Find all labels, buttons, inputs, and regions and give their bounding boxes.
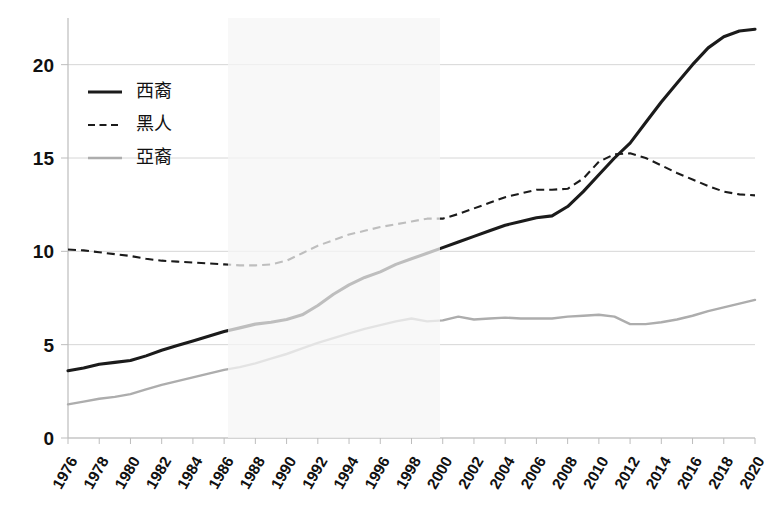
x-tick-label-1998: 1998 bbox=[392, 453, 424, 492]
x-tick-label-1984: 1984 bbox=[174, 453, 206, 492]
legend-label-1: 黑人 bbox=[136, 114, 172, 134]
x-tick-label-2014: 2014 bbox=[642, 453, 674, 492]
x-tick-label-1978: 1978 bbox=[80, 453, 112, 492]
x-axis-ticks-group: 1976197819801982198419861988199019921994… bbox=[49, 438, 768, 492]
x-tick-label-2010: 2010 bbox=[580, 453, 612, 491]
legend-label-2: 亞裔 bbox=[136, 147, 172, 167]
legend-label-0: 西裔 bbox=[136, 81, 172, 101]
x-tick-label-2002: 2002 bbox=[455, 453, 487, 491]
x-tick-label-1996: 1996 bbox=[361, 453, 393, 492]
x-tick-label-1992: 1992 bbox=[299, 453, 331, 491]
chart-legend: 西裔黑人亞裔 bbox=[88, 81, 172, 167]
x-tick-label-2008: 2008 bbox=[548, 453, 580, 492]
x-tick-label-2018: 2018 bbox=[705, 453, 737, 492]
x-tick-label-2020: 2020 bbox=[736, 453, 768, 491]
y-tick-label-15: 15 bbox=[33, 148, 55, 169]
chart-container: 05101520 1976197819801982198419861988199… bbox=[0, 0, 782, 517]
x-tick-label-1990: 1990 bbox=[267, 453, 299, 491]
x-tick-label-2000: 2000 bbox=[423, 453, 455, 491]
y-tick-label-10: 10 bbox=[33, 241, 54, 262]
line-chart: 05101520 1976197819801982198419861988199… bbox=[0, 0, 782, 517]
y-tick-label-5: 5 bbox=[43, 335, 54, 356]
y-tick-label-0: 0 bbox=[43, 428, 54, 449]
x-tick-label-2016: 2016 bbox=[673, 453, 705, 492]
x-tick-label-2004: 2004 bbox=[486, 453, 518, 492]
x-tick-label-1986: 1986 bbox=[205, 453, 237, 492]
series-line-asian bbox=[68, 300, 755, 405]
x-tick-label-2006: 2006 bbox=[517, 453, 549, 492]
x-tick-label-1994: 1994 bbox=[330, 453, 362, 492]
x-tick-label-1988: 1988 bbox=[236, 453, 268, 492]
x-tick-label-1980: 1980 bbox=[111, 453, 143, 491]
x-tick-label-1982: 1982 bbox=[142, 453, 174, 491]
x-tick-label-2012: 2012 bbox=[611, 453, 643, 491]
y-axis-ticks-group: 05101520 bbox=[33, 55, 68, 449]
y-tick-label-20: 20 bbox=[33, 55, 54, 76]
series-line-black bbox=[68, 153, 755, 265]
x-tick-label-1976: 1976 bbox=[49, 453, 81, 492]
